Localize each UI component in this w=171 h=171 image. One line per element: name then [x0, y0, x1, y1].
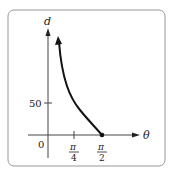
x-tick-label-pi-2-num: π [97, 142, 105, 152]
x-tick-label-pi-4-num: π [69, 142, 77, 152]
x-tick-label-pi-2-den: 2 [99, 153, 105, 163]
x-axis-label: θ [143, 129, 150, 142]
y-axis-label: d [44, 15, 51, 28]
figure-frame [8, 10, 165, 166]
x-tick-label-pi-4-den: 4 [71, 153, 77, 163]
y-tick-label-50: 50 [29, 98, 42, 109]
chart-figure: d θ 0 50 π 4 π 2 [0, 0, 171, 171]
origin-label: 0 [38, 139, 44, 150]
endpoint-dot [100, 133, 105, 138]
